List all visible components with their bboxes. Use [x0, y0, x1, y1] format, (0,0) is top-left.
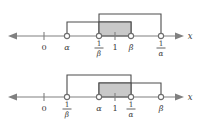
label-zero-top: 0 [41, 42, 46, 52]
bottom-number-line-panel: 0 1 β α 1 1 α β x [8, 75, 193, 119]
node-alpha-top [64, 33, 69, 38]
label-one-over-a-top-numerator: 1 [159, 39, 164, 48]
axis-label-x-top: x [188, 31, 193, 41]
label-one-over-a-top-denominator: α [159, 49, 164, 58]
node-one-over-b-bottom [64, 94, 69, 99]
node-one-over-b-top [96, 33, 101, 38]
node-one-over-a-bottom [128, 94, 133, 99]
label-one-over-b-bottom-numerator: 1 [65, 100, 70, 109]
interval-intersection-figure: 0 α 1 β 1 β 1 α x [0, 0, 199, 122]
label-one-over-a-bottom-denominator: α [129, 110, 134, 119]
label-beta-top: β [128, 42, 134, 52]
label-one-over-b-top: 1 β [95, 39, 104, 58]
label-one-over-b-bottom: 1 β [63, 100, 72, 119]
axis-label-x-bottom: x [188, 92, 193, 102]
label-one-over-a-top: 1 α [157, 39, 166, 58]
label-one-over-b-top-numerator: 1 [97, 39, 102, 48]
label-alpha-bottom: α [96, 103, 102, 113]
label-one-over-b-bottom-denominator: β [64, 110, 69, 119]
axis-arrow-left-bottom [8, 94, 17, 101]
label-beta-bottom: β [158, 103, 164, 113]
node-beta-top [128, 33, 133, 38]
label-zero-bottom: 0 [41, 103, 46, 113]
label-alpha-top: α [64, 42, 70, 52]
label-one-top: 1 [112, 42, 117, 52]
node-one-over-a-top [158, 33, 163, 38]
node-beta-bottom [158, 94, 163, 99]
label-one-bottom: 1 [112, 103, 117, 113]
label-one-over-b-top-denominator: β [96, 49, 101, 58]
axis-arrow-right-top [175, 33, 184, 40]
top-number-line-panel: 0 α 1 β 1 β 1 α x [8, 14, 193, 58]
axis-arrow-left-top [8, 33, 17, 40]
figure-canvas: 0 α 1 β 1 β 1 α x [0, 0, 199, 122]
node-alpha-bottom [96, 94, 101, 99]
label-one-over-a-bottom: 1 α [127, 100, 136, 119]
axis-arrow-right-bottom [175, 94, 184, 101]
label-one-over-a-bottom-numerator: 1 [129, 100, 134, 109]
